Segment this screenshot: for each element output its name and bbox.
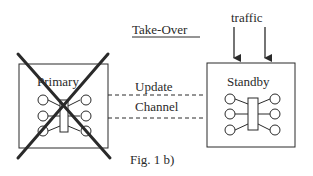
failed-cross-icon <box>18 54 110 158</box>
take-over-title: Take-Over <box>132 22 188 37</box>
standby-label: Standby <box>227 74 270 89</box>
channel-label-line2: Channel <box>135 99 179 114</box>
take-over-diagram: Take-Over traffic Primary <box>0 0 313 176</box>
standby-node: Standby <box>207 63 295 147</box>
switch-icon <box>38 95 91 136</box>
channel-label-line1: Update <box>135 79 173 94</box>
update-channel: Update Channel <box>108 79 205 118</box>
primary-node: Primary <box>18 54 110 158</box>
figure-caption: Fig. 1 b) <box>130 152 174 167</box>
switch-icon <box>225 94 280 135</box>
traffic-arrows <box>234 27 265 58</box>
traffic-label: traffic <box>231 10 263 25</box>
